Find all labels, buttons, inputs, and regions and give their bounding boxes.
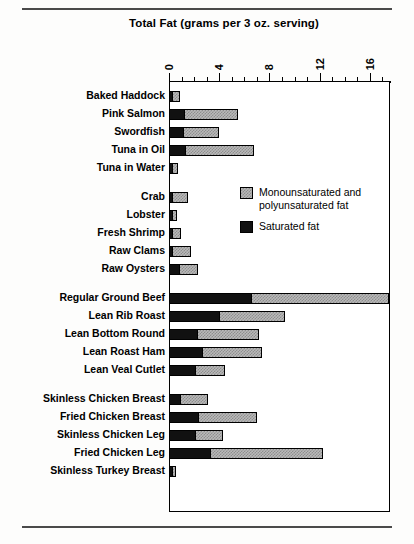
legend-swatch-saturated-icon	[240, 221, 253, 233]
bar-segment-unsaturated	[179, 264, 198, 275]
bottom-divider-rule	[22, 526, 392, 528]
legend-item-unsaturated: Monounsaturated and polyunsaturated fat	[240, 186, 388, 211]
bar-row-label: Lobster	[126, 208, 165, 221]
bar-segment-saturated	[169, 347, 202, 358]
stacked-bar	[169, 192, 188, 203]
bar-segment-unsaturated	[180, 394, 208, 405]
chart-title: Total Fat (grams per 3 oz. serving)	[0, 17, 414, 29]
chart-legend: Monounsaturated and polyunsaturated fat …	[240, 186, 388, 242]
stacked-bar	[169, 163, 178, 174]
bar-segment-saturated	[169, 145, 185, 156]
bar-row-label: Swordfish	[114, 125, 165, 138]
bar-row-label: Fried Chicken Leg	[74, 446, 165, 459]
stacked-bar	[169, 210, 177, 221]
bar-segment-unsaturated	[172, 246, 191, 257]
bar-segment-saturated	[169, 329, 197, 340]
bar-segment-unsaturated	[172, 91, 180, 102]
stacked-bar	[169, 311, 285, 322]
bar-segment-saturated	[169, 127, 183, 138]
bar-row-label: Crab	[141, 190, 165, 203]
bar-row-label: Raw Clams	[109, 244, 165, 257]
bar-segment-unsaturated	[195, 430, 223, 441]
bar-row: Lean Veal Cutlet	[0, 364, 414, 377]
stacked-bar	[169, 430, 223, 441]
bar-row: Lean Bottom Round	[0, 328, 414, 341]
stacked-bar	[169, 145, 254, 156]
bar-row: Raw Oysters	[0, 263, 414, 276]
bar-segment-unsaturated	[172, 192, 188, 203]
bar-segment-saturated	[169, 109, 184, 120]
bar-row-label: Skinless Chicken Leg	[57, 428, 165, 441]
bar-row-label: Baked Haddock	[86, 89, 165, 102]
bar-segment-saturated	[169, 430, 195, 441]
bar-row: Baked Haddock	[0, 90, 414, 103]
stacked-bar	[169, 394, 208, 405]
bar-row-label: Raw Oysters	[101, 262, 165, 275]
bar-row: Skinless Turkey Breast	[0, 465, 414, 478]
stacked-bar	[169, 412, 257, 423]
stacked-bar	[169, 329, 259, 340]
x-axis-tick-label: 8	[264, 64, 275, 70]
bar-segment-saturated	[169, 412, 198, 423]
bar-row-label: Tuna in Oil	[112, 143, 165, 156]
bar-row: Tuna in Water	[0, 162, 414, 175]
bar-segment-saturated	[169, 365, 195, 376]
bar-row-label: Fresh Shrimp	[97, 226, 165, 239]
stacked-bar	[169, 127, 219, 138]
bar-segment-unsaturated	[172, 228, 181, 239]
bar-row: Fried Chicken Breast	[0, 411, 414, 424]
bar-row: Fried Chicken Leg	[0, 447, 414, 460]
bar-row-label: Pink Salmon	[102, 107, 165, 120]
bar-row-label: Regular Ground Beef	[59, 291, 165, 304]
x-axis: 0481216	[169, 40, 390, 82]
bar-row-label: Tuna in Water	[97, 161, 165, 174]
bar-segment-unsaturated	[185, 145, 254, 156]
stacked-bar	[169, 246, 191, 257]
stacked-bar	[169, 264, 198, 275]
bar-row: Raw Clams	[0, 245, 414, 258]
x-axis-tick-label: 16	[365, 58, 376, 70]
bar-segment-unsaturated	[172, 466, 176, 477]
stacked-bar	[169, 91, 180, 102]
legend-item-saturated: Saturated fat	[240, 220, 388, 233]
legend-label-unsaturated: Monounsaturated and polyunsaturated fat	[259, 186, 388, 211]
x-axis-tick-label: 4	[214, 64, 225, 70]
bar-row-label: Skinless Chicken Breast	[43, 392, 165, 405]
bar-segment-unsaturated	[183, 127, 219, 138]
bar-row: Skinless Chicken Leg	[0, 429, 414, 442]
legend-label-saturated: Saturated fat	[259, 220, 319, 233]
bar-row: Regular Ground Beef	[0, 292, 414, 305]
bar-row: Swordfish	[0, 126, 414, 139]
stacked-bar	[169, 228, 181, 239]
bar-row-label: Lean Veal Cutlet	[84, 363, 165, 376]
bar-row: Lean Rib Roast	[0, 310, 414, 323]
stacked-bar	[169, 293, 389, 304]
bar-segment-saturated	[169, 448, 210, 459]
stacked-bar	[169, 347, 262, 358]
bar-rows: Baked HaddockPink SalmonSwordfishTuna in…	[0, 82, 414, 512]
bar-row: Skinless Chicken Breast	[0, 393, 414, 406]
bar-segment-unsaturated	[202, 347, 262, 358]
bar-segment-saturated	[169, 311, 219, 322]
bar-segment-unsaturated	[219, 311, 284, 322]
bar-segment-unsaturated	[198, 412, 257, 423]
bar-segment-saturated	[169, 264, 179, 275]
bar-segment-unsaturated	[210, 448, 323, 459]
top-divider-rule	[22, 8, 392, 10]
stacked-bar	[169, 365, 225, 376]
bar-row-label: Lean Rib Roast	[89, 309, 165, 322]
bar-row-label: Lean Bottom Round	[65, 327, 165, 340]
bar-segment-unsaturated	[184, 109, 238, 120]
x-axis-tick-label: 0	[164, 64, 175, 70]
bar-segment-unsaturated	[172, 163, 178, 174]
bar-segment-saturated	[169, 394, 180, 405]
bar-row-label: Skinless Turkey Breast	[50, 464, 165, 477]
bar-row: Pink Salmon	[0, 108, 414, 121]
bar-segment-unsaturated	[195, 365, 225, 376]
bar-segment-unsaturated	[251, 293, 389, 304]
legend-swatch-unsaturated-icon	[240, 187, 253, 199]
bar-segment-unsaturated	[197, 329, 260, 340]
bar-row-label: Lean Roast Ham	[83, 345, 165, 358]
bar-segment-unsaturated	[172, 210, 177, 221]
bar-row: Lean Roast Ham	[0, 346, 414, 359]
